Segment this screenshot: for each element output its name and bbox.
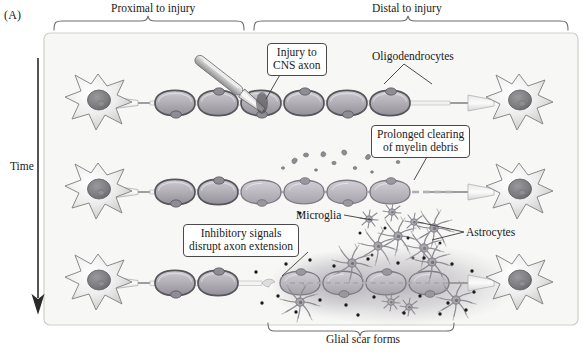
bracket-label-glial-scar: Glial scar forms <box>326 333 400 345</box>
callout-inhibitory-line2: disrupt axon extension <box>189 240 293 253</box>
label-oligodendrocytes: Oligodendrocytes <box>372 50 454 62</box>
callout-inhibitory-line1: Inhibitory signals <box>189 227 293 240</box>
callout-inhibitory-signals: Inhibitory signals disrupt axon extensio… <box>183 224 299 257</box>
callout-prolonged-clearing: Prolonged clearing of myelin debris <box>371 125 470 158</box>
callout-clearing-line2: of myelin debris <box>377 141 464 154</box>
bracket-label-proximal: Proximal to injury <box>111 2 195 14</box>
time-axis-label: Time <box>10 160 34 172</box>
label-astrocytes: Astrocytes <box>466 226 515 238</box>
bracket-label-distal: Distal to injury <box>372 2 442 14</box>
callout-injury-line1: Injury to <box>273 46 321 59</box>
label-microglia: Microglia <box>296 209 341 221</box>
callout-clearing-line1: Prolonged clearing <box>377 128 464 141</box>
panel-label: (A) <box>4 8 21 23</box>
callout-injury-to-cns-axon: Injury to CNS axon <box>267 43 327 76</box>
callout-injury-line2: CNS axon <box>273 59 321 72</box>
figure-panel-a: (A) Proximal to injury Distal to injury … <box>0 0 588 352</box>
